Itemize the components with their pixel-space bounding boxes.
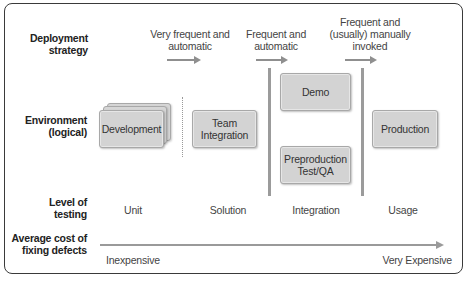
row-label-environment: Environment (logical) <box>0 114 87 138</box>
row-label-level-of-testing: Level of testing <box>0 196 87 220</box>
label-line: Environment <box>0 114 87 126</box>
strategy-line: invoked <box>320 40 420 52</box>
box-label: Preproduction <box>284 153 347 165</box>
arrow-right-icon <box>167 59 195 61</box>
box-label: Integration <box>201 129 248 141</box>
arrow-right-icon <box>256 59 282 61</box>
strategy-line: Frequent and <box>320 16 420 28</box>
testing-level-integration: Integration <box>280 204 352 216</box>
cost-label-inexpensive: Inexpensive <box>106 254 160 266</box>
environment-demo: Demo <box>280 73 351 111</box>
label-line: fixing defects <box>0 244 87 256</box>
environment-team-integration: Team Integration <box>192 110 257 148</box>
label-line: Average cost of <box>0 232 87 244</box>
box-label: Test/QA <box>298 165 334 177</box>
strategy-line: Very frequent and <box>140 28 240 40</box>
strategy-line: (usually) manually <box>320 28 420 40</box>
cost-scale-arrow <box>100 244 437 246</box>
row-label-deployment-strategy: Deployment strategy <box>0 32 88 56</box>
dotted-separator <box>182 97 183 157</box>
testing-level-usage: Usage <box>378 204 428 216</box>
environment-production: Production <box>372 110 438 148</box>
box-label: Demo <box>302 86 329 98</box>
row-label-average-cost: Average cost of fixing defects <box>0 232 87 256</box>
strategy-line: automatic <box>236 40 316 52</box>
environment-preproduction: Preproduction Test/QA <box>280 146 351 184</box>
label-line: (logical) <box>0 126 87 138</box>
strategy-manually-invoked: Frequent and (usually) manually invoked <box>320 16 420 52</box>
box-label: Team <box>212 117 237 129</box>
label-line: testing <box>0 208 87 220</box>
arrow-right-icon <box>345 59 371 61</box>
environment-development: Development <box>99 110 164 148</box>
box-label: Development <box>102 123 162 135</box>
vertical-separator <box>361 68 364 196</box>
label-line: Level of <box>0 196 87 208</box>
box-label: Production <box>381 123 429 135</box>
testing-level-unit: Unit <box>108 204 158 216</box>
strategy-very-frequent: Very frequent and automatic <box>140 28 240 52</box>
label-line: strategy <box>0 44 88 56</box>
cost-label-very-expensive: Very Expensive <box>372 254 452 266</box>
strategy-line: automatic <box>140 40 240 52</box>
vertical-separator <box>268 68 271 196</box>
strategy-line: Frequent and <box>236 28 316 40</box>
strategy-frequent-automatic: Frequent and automatic <box>236 28 316 52</box>
testing-level-solution: Solution <box>198 204 258 216</box>
label-line: Deployment <box>0 32 88 44</box>
